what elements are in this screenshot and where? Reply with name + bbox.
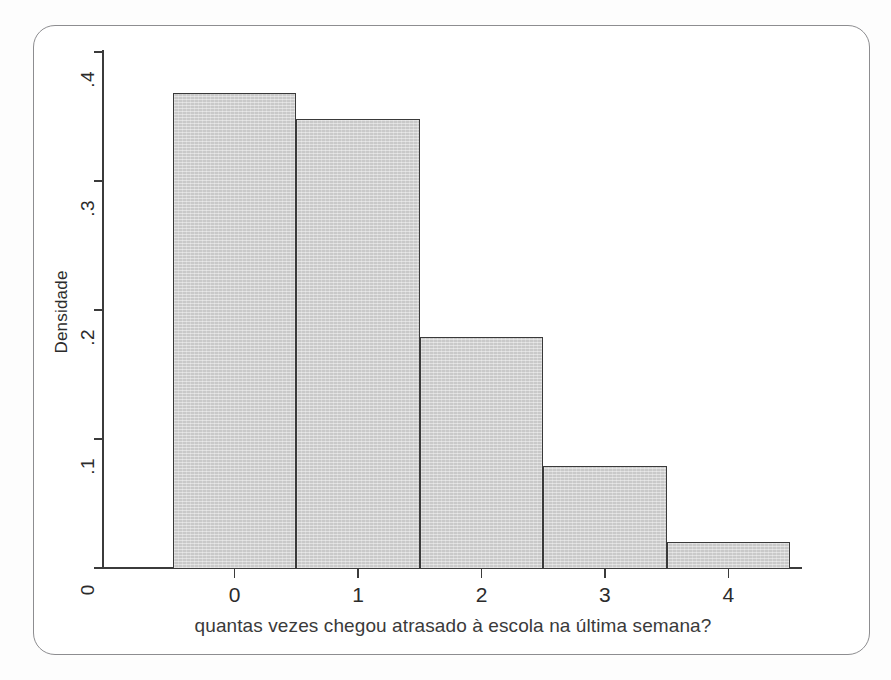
histogram-bar [173, 93, 296, 569]
histogram-bar [420, 337, 543, 569]
histogram-bar [667, 542, 790, 569]
y-axis-tick [94, 309, 103, 311]
histogram-bar [296, 119, 419, 569]
histogram-bar [543, 466, 666, 569]
x-axis-tick [481, 568, 483, 578]
x-axis-title: quantas vezes chegou atrasado à escola n… [103, 615, 803, 637]
x-axis-tick [234, 568, 236, 578]
y-axis-tick-label: .3 [77, 200, 99, 216]
y-axis-title: Densidade [52, 270, 72, 353]
y-axis-tick-label: 0 [77, 584, 99, 595]
x-axis-tick-label: 4 [698, 583, 758, 607]
x-axis-tick-label: 0 [205, 583, 265, 607]
figure-page: Densidade .4.3.2.10 01234 quantas vezes … [0, 0, 891, 680]
y-axis-tick-label: .4 [77, 71, 99, 87]
y-axis-tick-label: .1 [77, 458, 99, 474]
x-axis-tick-label: 2 [452, 583, 512, 607]
y-axis-tick [94, 567, 103, 569]
y-axis-tick [94, 51, 103, 53]
y-axis-tick [94, 438, 103, 440]
x-axis-tick-label: 1 [328, 583, 388, 607]
x-axis-tick [728, 568, 730, 578]
x-axis-tick [357, 568, 359, 578]
x-axis-tick [604, 568, 606, 578]
y-axis-tick [94, 180, 103, 182]
x-axis-tick-label: 3 [575, 583, 635, 607]
histogram-plot: Densidade .4.3.2.10 01234 quantas vezes … [0, 0, 891, 680]
y-axis-tick-label: .2 [77, 329, 99, 345]
